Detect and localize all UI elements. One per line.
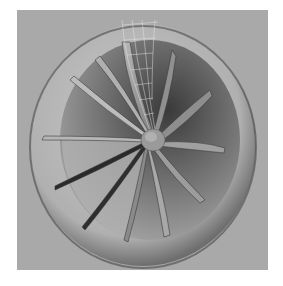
hub-highlight <box>145 132 157 142</box>
turbine-render <box>0 0 283 286</box>
